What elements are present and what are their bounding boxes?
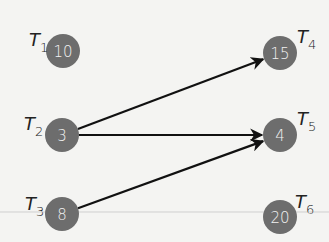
dag-diagram: 10T13T28T315T44T520T6 [0, 0, 329, 242]
node-label: T5 [297, 108, 316, 134]
node-label: T3 [25, 193, 44, 219]
node-t3: 8T3 [25, 193, 79, 231]
node-label: T6 [295, 191, 314, 217]
node-value: 10 [53, 43, 72, 61]
node-t4: 15T4 [263, 26, 316, 70]
node-label: T1 [29, 29, 48, 55]
edges [78, 59, 263, 208]
node-value: 8 [57, 206, 67, 224]
node-t6: 20T6 [263, 191, 314, 234]
node-value: 15 [270, 45, 289, 63]
node-value: 4 [275, 127, 285, 145]
node-label: T4 [297, 26, 316, 52]
nodes: 10T13T28T315T44T520T6 [24, 26, 316, 234]
node-value: 20 [270, 209, 289, 227]
node-label: T2 [24, 113, 43, 139]
node-value: 3 [57, 127, 67, 145]
edge-t3-t5 [78, 141, 263, 208]
node-t2: 3T2 [24, 113, 79, 152]
node-t5: 4T5 [263, 108, 316, 152]
node-t1: 10T1 [29, 29, 80, 68]
edge-t2-t4 [78, 59, 263, 129]
